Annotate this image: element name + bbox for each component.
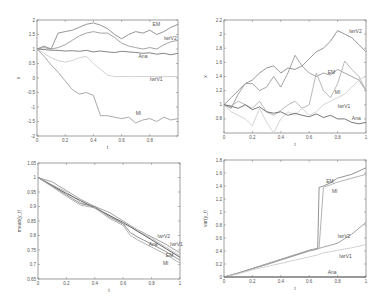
series-annotation: IwrV1: [338, 103, 351, 109]
y-tick-label: 1.4: [216, 74, 223, 79]
y-tick-label: 1.8: [216, 158, 223, 163]
y-tick-label: -1.5: [27, 119, 35, 124]
axes-frame: [38, 163, 180, 279]
y-tick-label: 1.2: [216, 197, 223, 202]
y-tick-label: 1.6: [216, 171, 223, 176]
series-annotation: Ana: [352, 115, 361, 121]
series-annotation: MI: [163, 260, 169, 266]
x-tick-label: 1: [365, 135, 368, 140]
x-tick-label: 0.4: [92, 281, 99, 286]
series-annotation: IwrV2: [164, 35, 177, 41]
y-tick-label: 1.05: [27, 161, 36, 166]
x-tick-label: 0.2: [62, 138, 69, 143]
y-tick-label: 1.4: [216, 184, 223, 189]
x-tick-label: 0.8: [148, 281, 155, 286]
y-tick-label: 0.8: [216, 116, 223, 121]
x-tick-label: 0: [223, 279, 226, 284]
y-tick-label: 2: [219, 32, 222, 37]
series-annotation: IwrV2: [157, 233, 170, 239]
x-tick-label: 0.8: [334, 135, 341, 140]
series-annotation: MI: [136, 110, 142, 116]
series-annotation: MI: [335, 89, 341, 95]
series-annotation: IwrV1: [339, 253, 352, 259]
figure: 21.510.50-0.5-1-1.5-200.20.40.60.8txEMIw…: [0, 0, 385, 306]
y-tick-label: 0.7: [30, 262, 37, 267]
y-tick-label: 1: [219, 210, 222, 215]
x-axis-label: t: [294, 141, 296, 147]
y-tick-label: 1.8: [216, 46, 223, 51]
x-tick-label: 0: [37, 281, 40, 286]
y-tick-label: 1.5: [29, 32, 36, 37]
y-tick-label: 0.5: [29, 61, 36, 66]
y-tick-label: 0: [32, 76, 35, 81]
series-annotation: Ana: [149, 241, 158, 247]
chart-panel-top-right: 2.221.81.61.41.210.800.20.40.60.81txIwrV…: [202, 18, 368, 147]
y-tick-label: 0.75: [27, 248, 36, 253]
x-tick-label: 0.2: [249, 279, 256, 284]
y-axis-label: x: [202, 75, 208, 78]
x-tick-label: 0.6: [120, 281, 127, 286]
y-tick-label: -1: [31, 105, 35, 110]
x-tick-label: 0.8: [334, 279, 341, 284]
series-annotation: IwrV2: [349, 28, 362, 34]
x-tick-label: 0.4: [278, 135, 285, 140]
y-tick-label: 0.6: [216, 236, 223, 241]
y-tick-label: 2.2: [216, 18, 223, 23]
chart-panel-top-left: 21.510.50-0.5-1-1.5-200.20.40.60.8txEMIw…: [15, 18, 178, 150]
y-tick-label: -0.5: [27, 90, 35, 95]
x-tick-label: 0.4: [278, 279, 285, 284]
y-tick-label: 0.8: [30, 233, 37, 238]
series-annotation: Ana: [328, 269, 337, 275]
y-axis-label: mean(y_t): [16, 209, 22, 232]
series-annotation: IwrV2: [338, 233, 351, 239]
chart-panel-bottom-left: 1.0510.950.90.850.80.750.70.6500.20.40.6…: [16, 161, 183, 293]
y-tick-label: 0.85: [27, 219, 36, 224]
axes-frame: [224, 160, 366, 277]
y-tick-label: 0.9: [30, 204, 37, 209]
x-tick-label: 1: [179, 281, 182, 286]
x-tick-label: 0.2: [249, 135, 256, 140]
series-annotation: IwrV1: [150, 76, 163, 82]
x-tick-label: 1: [365, 279, 368, 284]
y-tick-label: 1: [32, 47, 35, 52]
y-tick-label: 0.95: [27, 190, 36, 195]
x-tick-label: 0.2: [63, 281, 70, 286]
x-tick-label: 0.8: [147, 138, 154, 143]
y-tick-label: 0.8: [216, 223, 223, 228]
x-axis-label: t: [108, 287, 110, 293]
series-annotation: EM: [326, 178, 334, 184]
y-tick-label: 0.4: [216, 249, 223, 254]
series-annotation: EM: [328, 69, 336, 75]
series-annotation: EM: [153, 21, 161, 27]
series-annotation: Ana: [139, 53, 148, 59]
chart-panel-bottom-right: 1.81.61.41.210.80.60.40.2000.20.40.60.81…: [202, 158, 368, 291]
y-tick-label: 0.2: [216, 262, 223, 267]
series-annotation: MI: [332, 188, 338, 194]
x-axis-label: t: [294, 285, 296, 291]
x-tick-label: 0.4: [90, 138, 97, 143]
y-tick-label: 1.2: [216, 88, 223, 93]
chart-canvas: 21.510.50-0.5-1-1.5-200.20.40.60.8txEMIw…: [0, 0, 385, 306]
y-tick-label: 1: [33, 175, 36, 180]
x-tick-label: 0: [36, 138, 39, 143]
x-tick-label: 0.6: [306, 135, 313, 140]
x-tick-label: 0.6: [306, 279, 313, 284]
series-annotation: EM: [166, 252, 174, 258]
x-tick-label: 0: [223, 135, 226, 140]
y-axis-label: x: [15, 76, 21, 79]
series-annotation: IwrV1: [170, 241, 183, 247]
y-axis-label: var(y_t): [202, 210, 208, 227]
y-tick-label: 1.6: [216, 60, 223, 65]
axes-frame: [224, 20, 366, 133]
x-axis-label: t: [107, 144, 109, 150]
y-tick-label: 2: [32, 18, 35, 23]
x-tick-label: 0.6: [118, 138, 125, 143]
y-tick-label: 1: [219, 102, 222, 107]
y-tick-label: 0.65: [27, 277, 36, 282]
